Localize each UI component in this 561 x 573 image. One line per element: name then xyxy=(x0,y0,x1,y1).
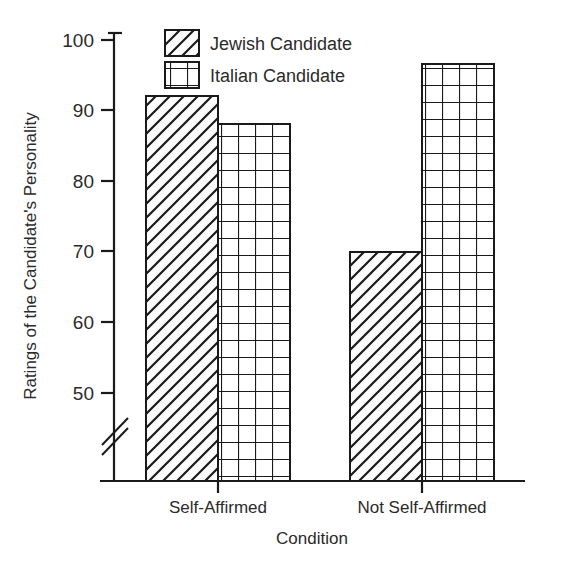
y-tick-label-70: 70 xyxy=(73,241,94,262)
y-tick-label-90: 90 xyxy=(73,100,94,121)
chart-canvas: 100 90 80 70 60 50 Self-Affirmed Not Sel… xyxy=(0,0,561,573)
legend-swatch-italian-candidate xyxy=(165,62,199,88)
y-tick-label-50: 50 xyxy=(73,383,94,404)
legend: Jewish Candidate Italian Candidate xyxy=(165,30,352,88)
bar-italian-self-affirmed xyxy=(218,124,290,481)
x-category-label-not-self-affirmed: Not Self-Affirmed xyxy=(357,498,486,517)
legend-label-jewish-candidate: Jewish Candidate xyxy=(210,34,352,54)
bar-italian-not-self-affirmed xyxy=(422,64,494,481)
x-axis-title: Condition xyxy=(276,529,348,548)
y-axis-ticks xyxy=(101,40,114,393)
y-tick-label-100: 100 xyxy=(62,30,94,51)
bar-jewish-not-self-affirmed xyxy=(350,252,422,481)
legend-swatch-jewish-candidate xyxy=(165,30,199,56)
legend-label-italian-candidate: Italian Candidate xyxy=(210,66,345,86)
x-category-label-self-affirmed: Self-Affirmed xyxy=(169,498,267,517)
y-axis-title: Ratings of the Candidate's Personality xyxy=(21,112,40,400)
y-tick-label-60: 60 xyxy=(73,312,94,333)
bar-jewish-self-affirmed xyxy=(146,96,218,481)
y-tick-label-80: 80 xyxy=(73,171,94,192)
bar-chart: 100 90 80 70 60 50 Self-Affirmed Not Sel… xyxy=(0,0,561,573)
